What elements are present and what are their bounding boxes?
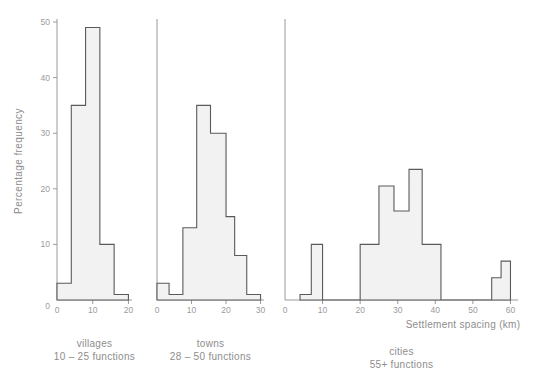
x-tick-label: 20 bbox=[221, 305, 231, 315]
histogram-svg: 01020304050Percentage frequency01020vill… bbox=[0, 0, 538, 383]
panel-caption-subtitle: 55+ functions bbox=[370, 359, 434, 370]
panel-caption-subtitle: 28 – 50 functions bbox=[170, 351, 251, 362]
x-tick-label: 40 bbox=[431, 305, 441, 315]
x-tick-label: 20 bbox=[355, 305, 365, 315]
x-tick-label: 0 bbox=[283, 305, 288, 315]
x-tick-label: 0 bbox=[55, 305, 60, 315]
y-tick-label: 20 bbox=[41, 184, 51, 194]
x-tick-label: 60 bbox=[506, 305, 516, 315]
panel-caption-name: cities bbox=[389, 346, 414, 357]
x-tick-label: 10 bbox=[187, 305, 197, 315]
histogram-towns bbox=[157, 105, 261, 300]
x-tick-label: 10 bbox=[318, 305, 328, 315]
x-tick-label: 30 bbox=[393, 305, 403, 315]
y-tick-label: 10 bbox=[41, 239, 51, 249]
chart-figure: 01020304050Percentage frequency01020vill… bbox=[0, 0, 538, 383]
y-tick-label: 0 bbox=[45, 301, 50, 311]
y-tick-label: 40 bbox=[41, 73, 51, 83]
x-tick-label: 0 bbox=[155, 305, 160, 315]
panel-cities: 0102030405060cities55+ functions bbox=[283, 19, 518, 370]
y-tick-label: 50 bbox=[41, 17, 51, 27]
x-tick-label: 20 bbox=[124, 305, 134, 315]
panel-towns: 0102030towns28 – 50 functions bbox=[155, 19, 266, 362]
panel-caption-name: towns bbox=[197, 338, 225, 349]
x-tick-label: 10 bbox=[88, 305, 98, 315]
histogram-cities bbox=[300, 169, 510, 300]
histogram-villages bbox=[57, 28, 128, 300]
x-tick-label: 30 bbox=[256, 305, 266, 315]
y-axis-title: Percentage frequency bbox=[13, 108, 24, 214]
x-axis-title: Settlement spacing (km) bbox=[406, 319, 521, 330]
y-tick-label: 30 bbox=[41, 128, 51, 138]
panel-caption-name: villages bbox=[77, 338, 113, 349]
y-axis: 01020304050Percentage frequency bbox=[13, 17, 57, 311]
panel-villages: 01020villages10 – 25 functions bbox=[54, 28, 135, 362]
panel-caption-subtitle: 10 – 25 functions bbox=[54, 351, 135, 362]
x-tick-label: 50 bbox=[468, 305, 478, 315]
